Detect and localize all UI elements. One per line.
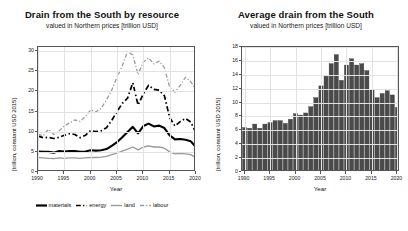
x-tick-label: 2000 (84, 175, 96, 181)
bar-2017 (380, 94, 384, 171)
x-tick-label: 2020 (391, 175, 403, 181)
gridline-vertical (245, 47, 246, 170)
x-tick-label: 2020 (189, 175, 201, 181)
y-tick-mark (239, 143, 242, 144)
y-tick-label: 10 (21, 128, 34, 134)
gridline-horizontal (242, 75, 398, 76)
y-tick-mark (35, 111, 38, 112)
x-tick-mark (116, 171, 117, 174)
left-plot-frame (37, 46, 195, 171)
gridline-vertical (170, 47, 171, 170)
right-plot-area (241, 46, 399, 171)
y-tick-mark (35, 50, 38, 51)
x-tick-mark (142, 171, 143, 174)
x-tick-label: 1990 (31, 175, 43, 181)
bar-1993 (258, 128, 262, 171)
x-tick-mark (37, 171, 38, 174)
bar-2002 (304, 113, 308, 171)
y-tick-label: 10 (225, 99, 238, 105)
y-tick-mark (239, 60, 242, 61)
left-y-axis-title: [trillion, constant USD 2015] (11, 98, 17, 171)
gridline-vertical (270, 47, 271, 170)
y-tick-mark (35, 90, 38, 91)
gridline-vertical (64, 47, 65, 170)
bar-2016 (375, 98, 379, 171)
legend-label-labour: labour (153, 202, 169, 208)
left-legend: materialsenergylandlabour (0, 202, 204, 208)
y-tick-label: 15 (21, 108, 34, 114)
x-tick-mark (345, 171, 346, 174)
gridline-vertical (346, 47, 347, 170)
gridline-horizontal (242, 116, 398, 117)
legend-label-energy: energy (89, 202, 106, 208)
bar-2019 (390, 95, 394, 171)
y-tick-mark (35, 151, 38, 152)
x-tick-label: 2015 (365, 175, 377, 181)
right-chart-subtitle: valued in Northern prices [trillion USD] (204, 22, 408, 30)
legend-swatch-materials (36, 203, 47, 208)
gridline-horizontal (242, 61, 398, 62)
x-tick-mark (295, 171, 296, 174)
x-tick-label: 2010 (137, 175, 149, 181)
x-tick-mark (169, 171, 170, 174)
right-x-axis-title: Year (241, 185, 399, 192)
figure-root: Drain from the South by resource valued … (0, 0, 408, 231)
y-tick-label: 8 (225, 112, 238, 118)
legend-swatch-land (111, 203, 122, 208)
x-tick-label: 2005 (314, 175, 326, 181)
x-tick-mark (371, 171, 372, 174)
gridline-vertical (91, 47, 92, 170)
gridline-vertical (372, 47, 373, 170)
x-tick-mark (396, 171, 397, 174)
bar-2008 (334, 55, 338, 171)
y-tick-mark (239, 157, 242, 158)
bar-2006 (324, 76, 328, 171)
legend-item-materials: materials (36, 202, 72, 208)
y-tick-mark (35, 70, 38, 71)
gridline-horizontal (242, 89, 398, 90)
y-tick-label: 12 (225, 85, 238, 91)
y-tick-mark (239, 171, 242, 172)
legend-label-materials: materials (49, 202, 72, 208)
gridline-horizontal (242, 130, 398, 131)
x-tick-mark (244, 171, 245, 174)
y-tick-label: 18 (225, 43, 238, 49)
bar-2012 (355, 65, 359, 171)
x-tick-mark (90, 171, 91, 174)
legend-item-labour: labour (140, 202, 169, 208)
y-tick-label: 5 (21, 148, 34, 154)
y-tick-mark (239, 115, 242, 116)
bar-1997 (278, 121, 282, 171)
legend-swatch-energy (76, 203, 87, 208)
x-tick-label: 2015 (163, 175, 175, 181)
y-tick-mark (239, 129, 242, 130)
y-tick-label: 25 (21, 67, 34, 73)
x-tick-mark (195, 171, 196, 174)
y-tick-mark (35, 131, 38, 132)
legend-swatch-labour (140, 203, 151, 208)
x-tick-label: 2010 (340, 175, 352, 181)
x-tick-label: 1995 (263, 175, 275, 181)
x-tick-mark (63, 171, 64, 174)
gridline-vertical (321, 47, 322, 170)
y-tick-label: 16 (225, 57, 238, 63)
x-tick-label: 2005 (110, 175, 122, 181)
gridline-vertical (38, 47, 39, 170)
y-tick-label: 0 (225, 168, 238, 174)
right-y-axis-title: [trillion, constant USD 2015] (215, 98, 221, 171)
y-tick-mark (239, 74, 242, 75)
gridline-horizontal (242, 158, 398, 159)
x-tick-mark (320, 171, 321, 174)
left-x-axis-title: Year (37, 185, 195, 192)
y-tick-mark (239, 102, 242, 103)
x-tick-label: 2000 (289, 175, 301, 181)
right-chart-title: Average drain from the South (204, 9, 408, 20)
right-plot-frame (241, 46, 399, 171)
y-tick-label: 14 (225, 71, 238, 77)
legend-item-land: land (111, 202, 135, 208)
left-plot-area (37, 46, 195, 171)
legend-item-energy: energy (76, 202, 106, 208)
y-tick-label: 30 (21, 47, 34, 53)
left-chart-subtitle: valued in Northern prices [trillion USD] (0, 22, 204, 30)
gridline-horizontal (242, 103, 398, 104)
